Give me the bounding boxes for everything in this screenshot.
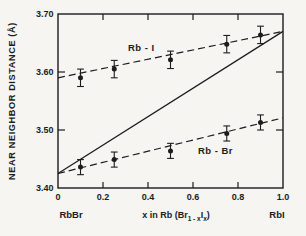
x-tick-label: 0.6: [187, 192, 200, 202]
x-end-label-rbbr: RbBr: [59, 209, 83, 220]
x-tick-label: 0.4: [142, 192, 155, 202]
data-point-marker: [168, 148, 173, 153]
y-tick-label: 3.70: [36, 9, 54, 19]
series-label-rb-br: Rb - Br: [198, 145, 233, 156]
series-label-rb-i: Rb - I: [128, 42, 155, 53]
y-tick-label: 3.60: [36, 67, 54, 77]
data-point-marker: [112, 157, 117, 162]
data-point-marker: [78, 165, 83, 170]
x-axis-title-subscript: 1 - x: [188, 215, 201, 222]
data-point-marker: [224, 42, 229, 47]
scanned-figure-page: Rb - IRb - Br3.403.503.603.7000.20.40.60…: [0, 0, 306, 236]
x-axis-title-text: ): [207, 210, 210, 220]
x-tick-label: 1.0: [277, 192, 290, 202]
near-neighbor-distance-chart: Rb - IRb - Br3.403.503.603.7000.20.40.60…: [0, 0, 306, 236]
data-point-marker: [258, 32, 263, 37]
y-tick-label: 3.40: [36, 183, 54, 193]
x-axis-title-text: x in Rb (Br: [142, 210, 188, 220]
data-point-marker: [258, 120, 263, 125]
x-tick-label: 0: [55, 192, 60, 202]
x-end-label-rbi: RbI: [269, 209, 284, 220]
data-point-marker: [224, 131, 229, 136]
y-axis-title: NEAR NEIGHBOR DISTANCE (Å): [7, 22, 17, 180]
x-tick-label: 0.2: [97, 192, 110, 202]
data-point-marker: [112, 67, 117, 72]
data-point-marker: [168, 57, 173, 62]
x-tick-label: 0.8: [232, 192, 245, 202]
data-point-marker: [78, 75, 83, 80]
y-tick-label: 3.50: [36, 125, 54, 135]
